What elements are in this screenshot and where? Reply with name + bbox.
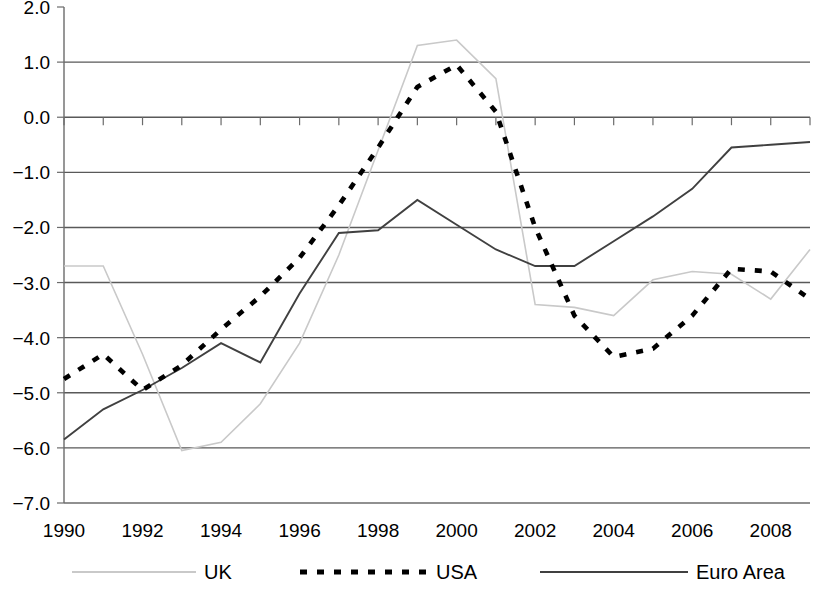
series-line-uk xyxy=(64,40,810,451)
legend-label-usa: USA xyxy=(436,561,478,583)
x-tick-label: 2000 xyxy=(435,520,477,541)
x-axis-ticks xyxy=(64,117,810,125)
y-tick-label: −7.0 xyxy=(12,493,50,514)
chart-container: 2.01.00.0−1.0−2.0−3.0−4.0−5.0−6.0−7.0 19… xyxy=(0,0,828,597)
x-axis-tick-labels: 1990199219941996199820002002200420062008 xyxy=(43,520,792,541)
x-tick-label: 2008 xyxy=(750,520,792,541)
y-tick-label: 0.0 xyxy=(24,107,50,128)
series-line-euro xyxy=(64,142,810,440)
y-tick-label: −6.0 xyxy=(12,438,50,459)
x-tick-label: 2006 xyxy=(671,520,713,541)
x-tick-label: 1992 xyxy=(121,520,163,541)
data-series xyxy=(64,40,810,451)
y-tick-label: −3.0 xyxy=(12,273,50,294)
y-axis-tick-labels: 2.01.00.0−1.0−2.0−3.0−4.0−5.0−6.0−7.0 xyxy=(12,0,50,514)
line-chart: 2.01.00.0−1.0−2.0−3.0−4.0−5.0−6.0−7.0 19… xyxy=(0,0,828,597)
y-tick-label: −4.0 xyxy=(12,328,50,349)
legend-label-uk: UK xyxy=(204,561,232,583)
y-tick-label: 1.0 xyxy=(24,52,50,73)
x-tick-label: 2002 xyxy=(514,520,556,541)
x-tick-label: 2004 xyxy=(593,520,636,541)
y-tick-label: −5.0 xyxy=(12,383,50,404)
gridlines xyxy=(57,7,810,503)
x-tick-label: 1996 xyxy=(278,520,320,541)
x-tick-label: 1990 xyxy=(43,520,85,541)
legend-label-euro: Euro Area xyxy=(696,561,786,583)
y-tick-label: −1.0 xyxy=(12,162,50,183)
x-tick-label: 1998 xyxy=(357,520,399,541)
legend: UK USA Euro Area xyxy=(72,561,786,583)
y-tick-label: 2.0 xyxy=(24,0,50,18)
y-tick-label: −2.0 xyxy=(12,217,50,238)
x-tick-label: 1994 xyxy=(200,520,243,541)
